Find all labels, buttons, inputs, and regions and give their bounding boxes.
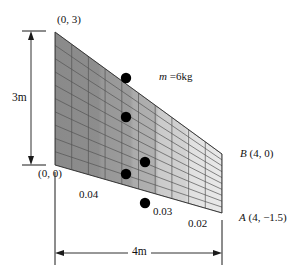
label-contour-004: 0.04: [79, 189, 98, 200]
height-arrow-up-icon: [28, 31, 34, 40]
label-bottom-left-coord: (0, 0): [38, 168, 62, 179]
label-point-b-coord: (4, 0): [249, 147, 273, 159]
label-point-b: B (4, 0): [240, 148, 273, 159]
label-mass: m =6kg: [159, 71, 192, 82]
label-contour-003: 0.03: [153, 206, 172, 217]
mass-dot-5: [140, 198, 150, 208]
label-point-a-coord: (4, −1.5): [248, 211, 286, 223]
width-arrow-right-icon: [213, 250, 222, 256]
label-mass-symbol: m: [159, 70, 167, 82]
label-point-a: A (4, −1.5): [239, 212, 287, 223]
mass-dot-2: [121, 112, 131, 122]
label-height-dimension: 3m: [12, 92, 27, 104]
tapered-plate-contour-figure: [0, 0, 307, 279]
label-top-left-coord: (0, 3): [57, 14, 81, 25]
mass-dot-3: [140, 157, 150, 167]
height-arrow-down-icon: [28, 156, 34, 165]
label-contour-002: 0.02: [188, 218, 207, 229]
label-mass-value: =6kg: [167, 70, 192, 82]
mass-dot-4: [121, 169, 131, 179]
mass-dot-1: [121, 73, 131, 83]
label-width-dimension: 4m: [128, 246, 151, 258]
width-arrow-left-icon: [55, 250, 64, 256]
